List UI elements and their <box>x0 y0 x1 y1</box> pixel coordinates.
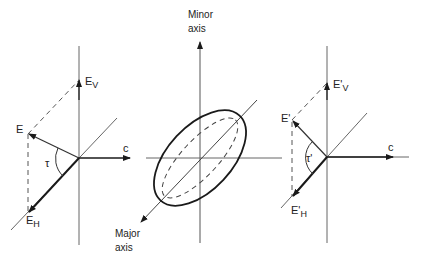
dashed-e-to-ev <box>28 80 79 134</box>
label-ev-prime: E'V <box>333 78 348 93</box>
major-axis-label-2: axis <box>115 242 133 253</box>
label-eh-prime: E'H <box>291 204 307 219</box>
label-tau-prime: τ' <box>306 152 312 164</box>
label-eh: EH <box>26 214 40 229</box>
e-vector-arrow <box>29 134 79 158</box>
label-ev: EV <box>85 75 98 90</box>
label-c: c <box>388 141 394 153</box>
polarization-diagram: E EV EH c τ Minor axis Major axis E' E'V… <box>0 0 426 260</box>
label-c: c <box>123 142 129 154</box>
label-e-prime: E' <box>281 112 290 124</box>
tau-angle-arc <box>56 148 63 176</box>
minor-axis-label-1: Minor <box>188 9 214 20</box>
right-panel: E' E'V E'H c τ' <box>281 46 409 243</box>
label-tau: τ <box>45 157 50 169</box>
minor-axis-label-2: axis <box>188 23 206 34</box>
eh-vector-arrow <box>29 158 79 212</box>
left-panel: E EV EH c τ <box>11 46 130 245</box>
major-axis-label-1: Major <box>115 228 141 239</box>
label-e: E <box>16 123 23 135</box>
center-panel: Minor axis Major axis <box>115 9 282 253</box>
dashed-e-to-ev <box>292 83 327 120</box>
